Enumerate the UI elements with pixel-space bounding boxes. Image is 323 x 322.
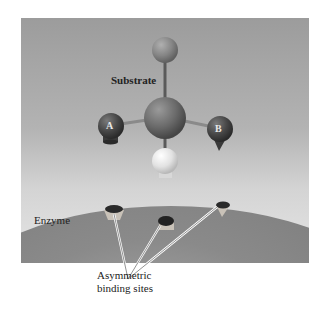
binding-sites-caption: Asymmetric binding sites [97, 269, 153, 295]
enzyme-label: Enzyme [34, 214, 70, 226]
top-atom [152, 37, 178, 63]
atom-a-label: A [106, 120, 113, 131]
caption-line-2: binding sites [97, 282, 153, 295]
binding-site-right [216, 202, 230, 218]
substrate-label: Substrate [111, 74, 156, 86]
central-atom [144, 97, 186, 139]
bottom-atom [152, 148, 178, 178]
atom-b-label: B [215, 123, 222, 134]
binding-site-center [158, 216, 174, 230]
molecule-diagram [0, 0, 323, 322]
caption-line-1: Asymmetric [97, 269, 153, 282]
